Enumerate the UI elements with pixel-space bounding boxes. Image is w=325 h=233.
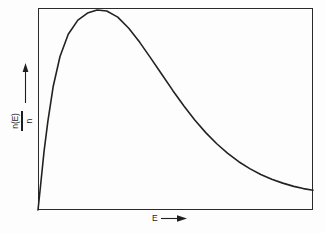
curve-path <box>38 10 313 210</box>
right-arrow-icon <box>161 214 187 223</box>
figure-root: n(E) n E <box>0 0 325 233</box>
y-axis-label: n(E) n <box>6 60 38 150</box>
y-axis-numerator: n(E) <box>10 113 20 128</box>
x-axis-label-text: E <box>152 213 158 223</box>
y-axis-denominator: n <box>24 119 34 124</box>
distribution-curve <box>38 8 313 210</box>
y-axis-fraction: n(E) n <box>4 91 40 151</box>
x-axis-label: E <box>152 213 187 223</box>
fraction-bar <box>21 111 22 131</box>
